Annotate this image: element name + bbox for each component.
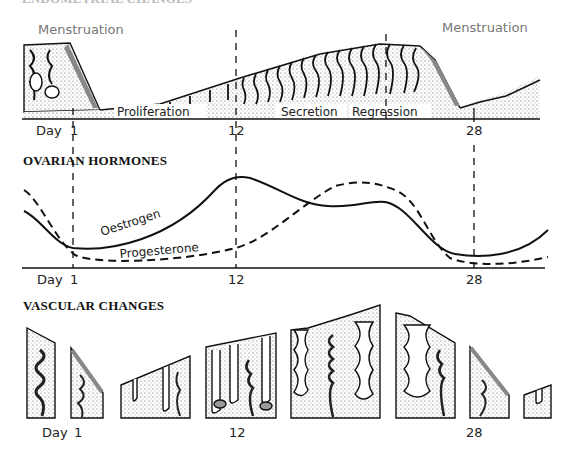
endometrial-day12-label: 12 bbox=[228, 123, 245, 138]
vascular-day-label: Day bbox=[42, 425, 68, 440]
phase-proliferation: Proliferation bbox=[117, 105, 190, 119]
phase-regression: Regression bbox=[352, 105, 418, 119]
hormone-day1-label: 1 bbox=[70, 272, 78, 287]
vascular-day1-label: 1 bbox=[74, 425, 82, 440]
endometrial-day1-label: 1 bbox=[70, 123, 78, 138]
endometrial-day-label: Day bbox=[36, 123, 62, 138]
diagram-canvas: Proliferation Secretion Regression Oestr… bbox=[0, 0, 572, 455]
endometrium-profile: Proliferation Secretion Regression bbox=[24, 43, 540, 119]
hormone-day-label: Day bbox=[37, 272, 63, 287]
vascular-day28-label: 28 bbox=[466, 425, 483, 440]
vascular-heading: VASCULAR CHANGES bbox=[23, 298, 164, 314]
hormone-day28-label: 28 bbox=[466, 272, 483, 287]
hormone-day12-label: 12 bbox=[228, 272, 245, 287]
vascular-day12-label: 12 bbox=[229, 425, 246, 440]
phase-secretion: Secretion bbox=[281, 105, 338, 119]
progesterone-curve bbox=[24, 183, 548, 264]
vascular-panels bbox=[27, 305, 551, 418]
hormones-heading: OVARIAN HORMONES bbox=[23, 153, 167, 169]
endometrial-day28-label: 28 bbox=[466, 123, 483, 138]
oestrogen-curve bbox=[24, 177, 548, 256]
